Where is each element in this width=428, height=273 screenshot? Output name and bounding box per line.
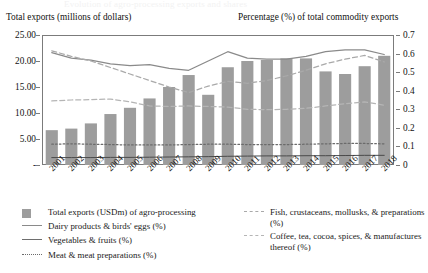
legend-item[interactable]: Coffee, tea, cocoa, spices, & manufactur… (244, 231, 426, 252)
y-axis-tick-label: 25.00 (15, 30, 36, 40)
legend-item-label: Dairy products & birds' eggs (%) (48, 221, 240, 232)
chart-legend: Total exports (USDm) of agro-processingD… (22, 207, 426, 269)
y2-axis-tick-mark (396, 54, 400, 55)
y-axis-tick-label: 5.00 (20, 134, 36, 144)
legend-marker-icon (22, 254, 42, 255)
line-series (52, 50, 384, 70)
y2-axis-tick-mark (396, 91, 400, 92)
bar (163, 87, 175, 165)
y2-axis-tick-label: 0.7 (403, 30, 415, 40)
y2-axis-tick-label: 0 (403, 160, 408, 170)
chart-canvas (42, 35, 394, 165)
legend-marker-icon (22, 209, 31, 218)
bar (359, 66, 371, 165)
legend-marker-icon (22, 225, 42, 226)
y2-axis-tick-mark (396, 146, 400, 147)
y2-axis-tick-label: 0.6 (403, 49, 415, 59)
legend-item[interactable]: Dairy products & birds' eggs (%) (22, 221, 240, 232)
y2-axis-tick-mark (396, 109, 400, 110)
line-series (52, 51, 384, 93)
page-title: Evolution of agro-processing exports and… (64, 0, 364, 11)
y2-axis-tick-mark (396, 72, 400, 73)
legend-item[interactable]: Total exports (USDm) of agro-processing (22, 207, 240, 218)
line-series (52, 99, 384, 110)
y-axis-tick-mark (36, 87, 40, 88)
bar (202, 95, 214, 165)
legend-item-label: Vegetables & fruits (%) (48, 235, 240, 246)
left-axis-ticks: -5.0010.0015.0020.0025.00 (0, 35, 40, 165)
y-axis-tick-label: 15.00 (15, 82, 36, 92)
y-axis-tick-mark (36, 139, 40, 140)
line-series (52, 143, 384, 144)
bar (261, 60, 273, 165)
chart-page: Evolution of agro-processing exports and… (0, 0, 428, 273)
bar (378, 56, 390, 165)
y2-axis-tick-label: 0.3 (403, 104, 415, 114)
y2-axis-tick-label: 0.5 (403, 67, 415, 77)
y2-axis-tick-mark (396, 128, 400, 129)
y2-axis-tick-label: 0.2 (403, 123, 415, 133)
legend-item[interactable]: Fish, crustaceans, mollusks, & preparati… (244, 207, 426, 228)
y2-axis-tick-label: 0.4 (403, 86, 415, 96)
legend-column-left: Total exports (USDm) of agro-processingD… (22, 207, 240, 264)
left-axis-caption: Total exports (millions of dollars) (6, 12, 131, 22)
bar (300, 58, 312, 165)
bar (183, 75, 195, 165)
legend-item-label: Fish, crustaceans, mollusks, & preparati… (270, 207, 426, 228)
right-axis-caption: Percentage (%) of total commodity export… (238, 12, 398, 22)
y-axis-tick-label: 20.00 (15, 56, 36, 66)
y2-axis-tick-mark (396, 35, 400, 36)
right-axis-ticks: 00.10.20.30.40.50.60.7 (396, 35, 426, 165)
y2-axis-tick-mark (396, 165, 400, 166)
bar (339, 74, 351, 165)
bar (319, 71, 331, 165)
x-axis-labels: 2001200220032004200520062007200820092010… (42, 166, 394, 206)
legend-item[interactable]: Vegetables & fruits (%) (22, 235, 240, 246)
legend-item-label: Meat & meat preparations (%) (48, 250, 240, 261)
legend-column-right: Fish, crustaceans, mollusks, & preparati… (244, 207, 426, 255)
legend-item-label: Total exports (USDm) of agro-processing (48, 207, 240, 218)
legend-item-label: Coffee, tea, cocoa, spices, & manufactur… (270, 231, 426, 252)
y-axis-tick-label: 10.00 (15, 108, 36, 118)
legend-item[interactable]: Meat & meat preparations (%) (22, 250, 240, 261)
legend-marker-icon (244, 235, 264, 236)
y2-axis-tick-label: 0.1 (403, 141, 415, 151)
y-axis-tick-mark (36, 165, 40, 166)
legend-marker-icon (22, 239, 42, 240)
legend-marker-icon (244, 211, 264, 212)
y-axis-tick-mark (36, 35, 40, 36)
plot-area (42, 35, 394, 165)
bar (143, 98, 155, 165)
bar (241, 61, 253, 165)
y-axis-tick-mark (36, 113, 40, 114)
y-axis-tick-mark (36, 61, 40, 62)
